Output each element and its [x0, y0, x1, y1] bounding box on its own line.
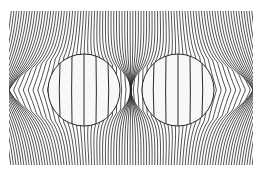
left-circle	[48, 54, 120, 126]
outer-field-lines	[0, 9, 265, 167]
field-line	[252, 9, 265, 167]
field-line	[119, 9, 131, 167]
field-line-diagram	[0, 0, 265, 173]
field-line	[0, 9, 1, 167]
field-line	[265, 9, 266, 167]
field-line	[249, 9, 265, 167]
field-line	[0, 9, 9, 167]
field-line	[254, 9, 265, 167]
field-line	[131, 9, 138, 167]
field-line	[0, 9, 6, 167]
field-line	[5, 9, 30, 167]
field-line	[259, 9, 265, 167]
field-line	[257, 9, 265, 167]
field-line	[244, 9, 264, 167]
field-line	[0, 9, 4, 167]
right-circle	[142, 54, 214, 126]
field-line	[0, 9, 14, 167]
field-line	[262, 9, 265, 167]
